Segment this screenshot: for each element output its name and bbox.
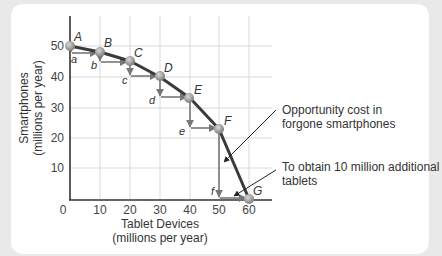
x-axis-title: Tablet Devices (millions per year) <box>112 217 207 245</box>
svg-text:E: E <box>194 83 203 97</box>
svg-text:30: 30 <box>51 101 65 115</box>
svg-text:Smartphones: Smartphones <box>17 72 31 143</box>
svg-text:20: 20 <box>123 203 137 217</box>
step-arrows <box>71 47 246 198</box>
svg-text:60: 60 <box>242 203 256 217</box>
svg-text:(millions per year): (millions per year) <box>112 231 207 245</box>
svg-text:50: 50 <box>212 203 226 217</box>
svg-text:50: 50 <box>51 39 65 53</box>
svg-text:e: e <box>179 125 185 137</box>
additional-tablets-annotation: To obtain 10 million additional tablets <box>282 160 439 188</box>
svg-text:F: F <box>224 114 232 128</box>
x-tick-labels: 0 10 20 30 40 50 60 <box>60 203 256 217</box>
svg-text:40: 40 <box>51 70 65 84</box>
svg-text:D: D <box>164 61 173 75</box>
svg-text:30: 30 <box>153 203 167 217</box>
step-labels: a b c d e f <box>71 53 215 197</box>
svg-text:c: c <box>122 74 128 86</box>
svg-text:20: 20 <box>51 131 65 145</box>
svg-text:Tablet Devices: Tablet Devices <box>121 217 199 231</box>
point-e <box>184 93 194 103</box>
svg-text:G: G <box>253 184 262 198</box>
y-axis-title: Smartphones (millions per year) <box>17 60 45 155</box>
annotation-line: Opportunity cost in <box>282 103 395 117</box>
svg-text:10: 10 <box>93 203 107 217</box>
svg-text:f: f <box>211 185 215 197</box>
svg-text:C: C <box>134 46 143 60</box>
gridlines <box>70 16 272 199</box>
svg-text:A: A <box>73 30 82 44</box>
y-tick-labels: 10 20 30 40 50 <box>51 39 65 175</box>
opportunity-cost-pointer <box>224 110 276 162</box>
svg-text:d: d <box>149 94 156 106</box>
svg-text:0: 0 <box>60 203 67 217</box>
svg-text:10: 10 <box>51 161 65 175</box>
annotation-line: forgone smartphones <box>282 117 395 131</box>
svg-text:40: 40 <box>183 203 197 217</box>
annotation-line: To obtain 10 million additional <box>282 160 439 174</box>
opportunity-cost-annotation: Opportunity cost in forgone smartphones <box>282 103 395 131</box>
svg-text:b: b <box>91 59 97 71</box>
svg-text:(millions per year): (millions per year) <box>31 60 45 155</box>
svg-text:B: B <box>104 36 112 50</box>
point-f <box>214 124 224 134</box>
annotation-line: tablets <box>282 174 439 188</box>
svg-text:a: a <box>71 53 77 65</box>
